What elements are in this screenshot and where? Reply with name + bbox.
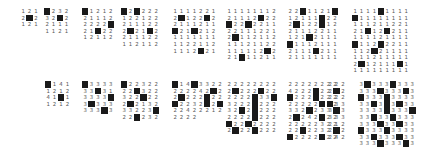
mine-cell[interactable]	[332, 8, 338, 15]
number-cell[interactable]: 3	[108, 81, 114, 88]
number-cell[interactable]: 2	[153, 28, 159, 35]
number-cell[interactable]: 3	[340, 107, 346, 114]
number-cell[interactable]: 2	[332, 21, 338, 28]
number-cell[interactable]: 1	[332, 54, 338, 61]
number-cell[interactable]: 1	[271, 54, 277, 61]
number-cell[interactable]: 1	[403, 15, 409, 22]
number-cell[interactable]: 1	[64, 94, 70, 101]
mine-cell[interactable]	[153, 107, 159, 114]
mine-cell[interactable]	[108, 21, 114, 28]
number-cell[interactable]: 2	[340, 134, 346, 141]
number-cell[interactable]: 2	[64, 88, 70, 95]
number-cell[interactable]: 2	[153, 8, 159, 15]
number-cell[interactable]: 2	[153, 94, 159, 101]
number-cell[interactable]: 2	[340, 81, 346, 88]
number-cell[interactable]: 1	[403, 8, 409, 15]
number-cell[interactable]: 1	[271, 28, 277, 35]
number-cell[interactable]: 2	[153, 15, 159, 22]
number-cell[interactable]: 3	[409, 94, 415, 101]
number-cell[interactable]: 3	[409, 134, 415, 141]
number-cell[interactable]: 2	[271, 101, 277, 108]
number-cell[interactable]: 2	[271, 41, 277, 48]
number-cell[interactable]: 2	[153, 81, 159, 88]
number-cell[interactable]: 2	[332, 15, 338, 22]
number-cell[interactable]: 1	[210, 34, 216, 41]
number-cell[interactable]: 3	[340, 101, 346, 108]
number-cell[interactable]: 1	[403, 41, 409, 48]
mine-cell[interactable]	[217, 101, 223, 108]
number-cell[interactable]: 2	[271, 48, 277, 55]
number-cell[interactable]: 1	[332, 28, 338, 35]
mine-cell[interactable]	[271, 94, 277, 101]
number-cell[interactable]: 3	[409, 101, 415, 108]
number-cell[interactable]: 2	[210, 15, 216, 22]
number-cell[interactable]: 2	[217, 81, 223, 88]
number-cell[interactable]: 2	[271, 107, 277, 114]
number-cell[interactable]: 1	[271, 21, 277, 28]
number-cell[interactable]: 1	[403, 28, 409, 35]
number-cell[interactable]: 1	[33, 8, 39, 15]
number-cell[interactable]: 2	[108, 15, 114, 22]
number-cell[interactable]: 1	[63, 21, 69, 28]
number-cell[interactable]: 2	[271, 81, 277, 88]
number-cell[interactable]: 3	[409, 114, 415, 121]
number-cell[interactable]: 1	[210, 8, 216, 15]
number-cell[interactable]: 2	[153, 114, 159, 121]
number-cell[interactable]: 2	[340, 88, 346, 95]
number-cell[interactable]: 2	[153, 41, 159, 48]
number-cell[interactable]: 3	[409, 121, 415, 128]
number-cell[interactable]: 1	[332, 41, 338, 48]
number-cell[interactable]: 2	[64, 101, 70, 108]
number-cell[interactable]: 2	[108, 8, 114, 15]
number-cell[interactable]: 2	[153, 34, 159, 41]
number-cell[interactable]: 2	[271, 121, 277, 128]
number-cell[interactable]: 2	[217, 94, 223, 101]
number-cell[interactable]: 3	[409, 81, 415, 88]
number-cell[interactable]: 2	[340, 94, 346, 101]
number-cell[interactable]: 2	[217, 107, 223, 114]
number-cell[interactable]: 2	[108, 34, 114, 41]
number-cell[interactable]: 3	[340, 114, 346, 121]
number-cell[interactable]: 1	[403, 34, 409, 41]
number-cell[interactable]: 2	[191, 114, 197, 121]
number-cell[interactable]: 2	[271, 15, 277, 22]
number-cell[interactable]: 1	[403, 54, 409, 61]
number-cell[interactable]: 1	[63, 28, 69, 35]
number-cell[interactable]: 1	[403, 48, 409, 55]
number-cell[interactable]: 2	[340, 127, 346, 134]
number-cell[interactable]: 2	[63, 15, 69, 22]
number-cell[interactable]: 1	[332, 34, 338, 41]
number-cell[interactable]: 1	[210, 48, 216, 55]
number-cell[interactable]: 3	[108, 101, 114, 108]
mine-cell[interactable]	[108, 94, 114, 101]
number-cell[interactable]: 1	[332, 48, 338, 55]
number-cell[interactable]: 1	[64, 81, 70, 88]
number-cell[interactable]: 3	[409, 140, 415, 147]
number-cell[interactable]: 1	[403, 67, 409, 74]
number-cell[interactable]: 2	[108, 28, 114, 35]
number-cell[interactable]: 1	[403, 21, 409, 28]
number-cell[interactable]: 2	[33, 15, 39, 22]
mine-cell[interactable]	[409, 107, 415, 114]
number-cell[interactable]: 3	[409, 127, 415, 134]
number-cell[interactable]: 1	[210, 21, 216, 28]
number-cell[interactable]: 2	[153, 101, 159, 108]
number-cell[interactable]: 1	[33, 21, 39, 28]
number-cell[interactable]: 2	[63, 8, 69, 15]
number-cell[interactable]: 2	[217, 88, 223, 95]
number-cell[interactable]: 2	[271, 34, 277, 41]
number-cell[interactable]: 2	[340, 121, 346, 128]
number-cell[interactable]: 2	[153, 21, 159, 28]
number-cell[interactable]: 2	[153, 88, 159, 95]
number-cell[interactable]: 2	[210, 41, 216, 48]
number-cell[interactable]: 3	[409, 88, 415, 95]
number-cell[interactable]: 2	[271, 114, 277, 121]
number-cell[interactable]: 1	[403, 61, 409, 68]
number-cell[interactable]: 3	[108, 107, 114, 114]
number-cell[interactable]: 2	[271, 127, 277, 134]
number-cell[interactable]: 2	[210, 28, 216, 35]
number-cell[interactable]: 2	[271, 88, 277, 95]
puzzle-grid: 1111111221112222222112211122121121121112…	[226, 8, 277, 61]
number-cell[interactable]: 2	[271, 8, 277, 15]
number-cell[interactable]: 1	[108, 88, 114, 95]
